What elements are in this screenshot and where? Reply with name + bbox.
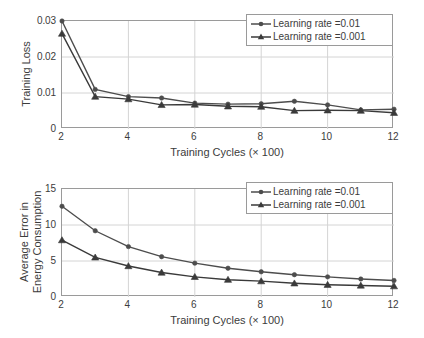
legend-label: Learning rate =0.001 xyxy=(272,199,366,210)
data-point-circle xyxy=(126,244,130,248)
data-point-triangle xyxy=(58,30,65,36)
chart-panel-training-loss: Training Loss Training Cycles (× 100) Le… xyxy=(0,0,424,169)
legend-item-lr-001[interactable]: Learning rate =0.01 xyxy=(250,17,388,30)
data-point-circle xyxy=(159,254,163,258)
legend-item-lr-0001[interactable]: Learning rate =0.001 xyxy=(250,30,388,43)
x-axis-label-average-error: Training Cycles (× 100) xyxy=(61,314,393,326)
chart-panel-average-error: Average Error in Energy Consumption Trai… xyxy=(0,169,424,338)
x-axis-tick-label: 6 xyxy=(191,299,197,310)
figure: Training Loss Training Cycles (× 100) Le… xyxy=(0,0,424,338)
data-point-circle xyxy=(392,278,396,282)
legend-average-error[interactable]: Learning rate =0.01 Learning rate =0.001 xyxy=(246,182,393,214)
data-point-circle xyxy=(259,270,263,274)
legend-label: Learning rate =0.01 xyxy=(272,18,360,29)
y-axis-tick-label: 0 xyxy=(0,291,56,302)
data-point-circle xyxy=(159,96,163,100)
data-point-circle xyxy=(193,261,197,265)
y-axis-tick-label: 0.01 xyxy=(0,87,56,98)
y-axis-tick-label: 0 xyxy=(0,123,56,134)
legend-item-lr-001[interactable]: Learning rate =0.01 xyxy=(250,185,388,198)
legend-marker-circle-icon xyxy=(250,186,272,198)
y-axis-tick-label: 0.02 xyxy=(0,51,56,62)
y-axis-label-line: Average Error in xyxy=(18,191,31,294)
x-axis-tick-label: 10 xyxy=(321,299,332,310)
data-point-circle xyxy=(359,277,363,281)
legend-label: Learning rate =0.001 xyxy=(272,31,366,42)
data-point-circle xyxy=(226,266,230,270)
x-axis-label-training-loss: Training Cycles (× 100) xyxy=(61,146,393,158)
y-axis-tick-label: 0.03 xyxy=(0,15,56,26)
data-point-circle xyxy=(60,204,64,208)
y-axis-tick-label: 15 xyxy=(0,183,56,194)
y-axis-label-average-error: Average Error in Energy Consumption xyxy=(18,191,43,294)
legend-marker-triangle-icon xyxy=(250,31,272,43)
data-point-circle xyxy=(93,229,97,233)
legend-marker-circle-icon xyxy=(250,18,272,30)
x-axis-tick-label: 8 xyxy=(257,131,263,142)
data-point-triangle xyxy=(58,237,65,243)
x-axis-tick-label: 8 xyxy=(257,299,263,310)
x-axis-tick-label: 12 xyxy=(387,299,398,310)
legend-label: Learning rate =0.01 xyxy=(272,186,360,197)
x-axis-tick-label: 4 xyxy=(125,299,131,310)
x-axis-tick-label: 2 xyxy=(58,299,64,310)
legend-training-loss[interactable]: Learning rate =0.01 Learning rate =0.001 xyxy=(246,14,393,46)
y-axis-tick-label: 10 xyxy=(0,219,56,230)
data-point-circle xyxy=(93,87,97,91)
x-axis-tick-label: 2 xyxy=(58,131,64,142)
x-axis-tick-label: 6 xyxy=(191,131,197,142)
y-axis-label-line: Energy Consumption xyxy=(30,191,43,294)
data-point-circle xyxy=(325,275,329,279)
legend-item-lr-0001[interactable]: Learning rate =0.001 xyxy=(250,198,388,211)
data-point-circle xyxy=(292,99,296,103)
y-axis-tick-label: 5 xyxy=(0,255,56,266)
x-axis-tick-label: 4 xyxy=(125,131,131,142)
data-point-circle xyxy=(292,272,296,276)
legend-marker-triangle-icon xyxy=(250,199,272,211)
x-axis-tick-label: 10 xyxy=(321,131,332,142)
data-point-triangle xyxy=(92,254,99,260)
x-axis-tick-label: 12 xyxy=(387,131,398,142)
data-point-circle xyxy=(60,19,64,23)
